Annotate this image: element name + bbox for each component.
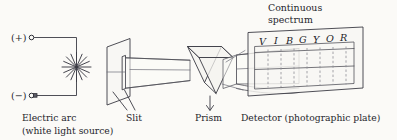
beam-slit-to-prism — [126, 58, 191, 88]
positive-lead-wire — [35, 38, 77, 61]
continuous-spectrum-heading: Continuous spectrum — [268, 2, 322, 25]
label-slit: Slit — [126, 112, 142, 123]
negative-terminal-block — [33, 94, 37, 98]
arc-starburst-icon — [62, 53, 91, 82]
label-electric-arc-line2: (white light source) — [22, 125, 113, 136]
heading-line-2: spectrum — [268, 14, 313, 25]
label-prism: Prism — [195, 112, 222, 123]
spectroscope-diagram: V I B G Y O R Continuous spectrum (+) (−… — [0, 0, 397, 140]
label-detector: Detector (photographic plate) — [241, 112, 380, 123]
spectrum-letter-red: R — [339, 32, 347, 43]
electric-arc-group — [29, 35, 91, 98]
spectrum-letter-violet: V — [259, 36, 267, 47]
spectrum-letter-green: G — [299, 34, 307, 45]
caption-labels-group: Electric arc (white light source) Slit P… — [22, 112, 380, 136]
label-electric-arc-line1: Electric arc — [22, 112, 76, 123]
diagram-canvas: V I B G Y O R Continuous spectrum (+) (−… — [0, 0, 397, 140]
spectrum-letter-indigo: I — [273, 35, 278, 46]
spectrum-letter-orange: O — [326, 33, 334, 44]
negative-lead-wire — [35, 75, 77, 96]
heading-line-1: Continuous — [268, 2, 322, 13]
negative-terminal-label: (−) — [11, 90, 27, 101]
spectrum-letter-blue: B — [285, 35, 293, 46]
positive-terminal-label: (+) — [11, 32, 27, 43]
positive-terminal-node — [29, 35, 34, 40]
